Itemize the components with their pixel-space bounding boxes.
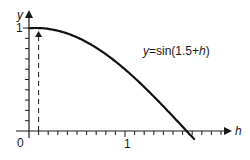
y-axis-label: y (16, 8, 24, 22)
x-axis-label: h (235, 124, 242, 138)
curve-label: y=sin(1.5+h) (142, 44, 210, 58)
x-tick-label-1: 1 (124, 137, 131, 151)
sine-chart: 0 1 1 h y y=sin(1.5+h) (0, 0, 250, 160)
curve-label-body: =sin(1.5+ (149, 44, 199, 58)
origin-label: 0 (17, 136, 24, 150)
curve-label-close: ) (206, 44, 210, 58)
y-tick-label-1: 1 (16, 21, 23, 35)
y-axis-ticks (23, 28, 29, 121)
